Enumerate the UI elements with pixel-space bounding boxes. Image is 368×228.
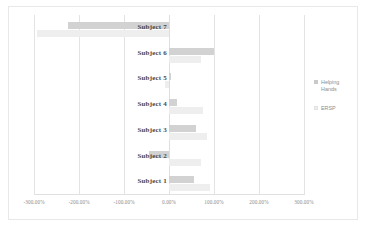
bar-ersp (169, 56, 201, 63)
gridline (124, 15, 125, 195)
category-label: Subject 7 (137, 23, 167, 31)
chart-container: Subject 7Subject 6Subject 5Subject 4Subj… (8, 6, 358, 220)
x-tick-label: 300.00% (294, 199, 313, 205)
legend-label-helping-hands: HelpingHands (321, 79, 339, 94)
legend-item-helping-hands: HelpingHands (314, 79, 360, 94)
x-tick-label: -100.00% (113, 199, 134, 205)
bar-hh (169, 73, 171, 80)
x-tick-label: 0.00% (162, 199, 176, 205)
bar-ersp (165, 81, 169, 88)
gridline (214, 15, 215, 195)
category-label: Subject 5 (137, 74, 167, 82)
x-tick-label: 100.00% (204, 199, 223, 205)
plot-area: Subject 7Subject 6Subject 5Subject 4Subj… (34, 15, 304, 195)
bar-hh (169, 176, 194, 183)
chart-legend: HelpingHands ERSP (314, 79, 360, 123)
bar-ersp (169, 159, 201, 166)
x-tick-label: 200.00% (249, 199, 268, 205)
gridline (79, 15, 80, 195)
bar-ersp (37, 30, 169, 37)
x-tick-label: -300.00% (23, 199, 44, 205)
legend-swatch-icon (314, 80, 318, 84)
legend-item-ersp: ERSP (314, 105, 360, 112)
bar-ersp (169, 133, 207, 140)
x-axis-tick-labels: -300.00%-200.00%-100.00%0.00%100.00%200.… (34, 199, 304, 209)
gridline (304, 15, 305, 195)
category-label: Subject 1 (137, 177, 167, 185)
bar-ersp (169, 184, 210, 191)
category-label: Subject 4 (137, 100, 167, 108)
bar-hh (169, 125, 196, 132)
category-label: Subject 6 (137, 49, 167, 57)
bar-ersp (169, 107, 203, 114)
x-tick-label: -200.00% (68, 199, 89, 205)
legend-swatch-icon (314, 106, 318, 110)
category-label: Subject 3 (137, 126, 167, 134)
bar-hh (169, 99, 177, 106)
category-label: Subject 2 (137, 152, 167, 160)
legend-label-ersp: ERSP (321, 105, 336, 112)
bar-hh (169, 48, 214, 55)
gridline (34, 15, 35, 195)
gridline (259, 15, 260, 195)
